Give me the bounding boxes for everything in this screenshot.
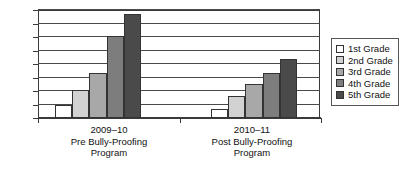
legend-item: 2nd Grade xyxy=(336,55,393,67)
bar xyxy=(245,84,262,118)
legend: 1st Grade2nd Grade3rd Grade4th Grade5th … xyxy=(331,38,399,106)
x-axis-tick xyxy=(38,118,39,123)
legend-label: 2nd Grade xyxy=(348,56,393,66)
x-axis-group-label-line: Pre Bully-Proofing xyxy=(39,136,179,148)
legend-item: 4th Grade xyxy=(336,78,393,90)
bar-chart: 020406080100120140160 2009–10Pre Bully-P… xyxy=(0,0,420,183)
bar xyxy=(107,36,124,118)
y-axis-tick xyxy=(33,91,38,92)
x-axis-group-label-line: 2009–10 xyxy=(39,124,179,136)
legend-item: 5th Grade xyxy=(336,89,393,101)
legend-item: 3rd Grade xyxy=(336,66,393,78)
x-axis-group-label-line: Post Bully-Proofing xyxy=(182,136,322,148)
x-axis-group-label: 2010–11Post Bully-ProofingProgram xyxy=(182,124,322,159)
x-axis-group-label-line: Program xyxy=(182,147,322,159)
legend-label: 1st Grade xyxy=(348,44,390,54)
legend-item: 1st Grade xyxy=(336,43,393,55)
legend-swatch xyxy=(336,68,344,76)
x-axis-group-label-line: Program xyxy=(39,147,179,159)
legend-label: 5th Grade xyxy=(348,90,390,100)
bar xyxy=(211,109,228,118)
bar xyxy=(72,90,89,118)
y-axis-tick xyxy=(33,24,38,25)
legend-swatch xyxy=(336,79,344,87)
legend-swatch xyxy=(336,91,344,99)
bar xyxy=(228,96,245,118)
x-axis-tick xyxy=(180,118,181,123)
bar xyxy=(124,14,141,118)
x-axis-group-label-line: 2010–11 xyxy=(182,124,322,136)
legend-label: 4th Grade xyxy=(348,79,390,89)
y-axis-tick xyxy=(33,51,38,52)
legend-swatch xyxy=(336,45,344,53)
y-axis-tick xyxy=(33,64,38,65)
y-axis-tick xyxy=(33,78,38,79)
legend-label: 3rd Grade xyxy=(348,67,391,77)
y-axis-tick xyxy=(33,37,38,38)
x-axis-tick xyxy=(321,118,322,123)
bar xyxy=(89,73,106,118)
x-axis-group-label: 2009–10Pre Bully-ProofingProgram xyxy=(39,124,179,159)
legend-swatch xyxy=(336,56,344,64)
bar xyxy=(280,59,297,118)
y-axis-tick xyxy=(33,105,38,106)
y-axis-tick xyxy=(33,10,38,11)
bar xyxy=(263,73,280,118)
bar xyxy=(55,105,72,119)
